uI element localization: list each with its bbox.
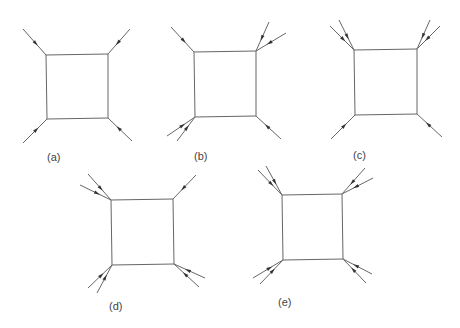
arrow-icon [345,33,349,39]
diagram-label-e: (e) [278,296,291,308]
arrow-icon [267,40,273,44]
loop-square [111,199,174,265]
diagram-label-d: (d) [109,300,122,312]
arrow-icon [353,184,359,188]
loop-square [46,54,108,119]
box-diagram-a [23,29,132,143]
diagram-label-b: (b) [194,150,207,162]
arrow-icon [94,191,100,195]
arrow-icon [185,269,191,273]
arrow-icon [272,179,276,185]
loop-square [282,194,343,260]
loop-square [354,49,417,115]
diagram-label-c: (c) [353,149,366,161]
box-diagram-e [253,166,373,284]
arrow-icon [266,266,272,270]
box-diagram-b [167,22,286,141]
arrow-icon [103,275,107,281]
feynman-box-diagrams-figure: (a) (b) (c) (d) (e) [0,0,460,328]
diagram-label-a: (a) [47,151,60,163]
box-diagram-c [330,20,442,139]
box-diagram-d [80,174,205,293]
diagram-canvas [0,0,460,328]
arrow-icon [261,35,265,41]
loop-square [194,51,256,117]
arrow-icon [422,33,426,39]
arrow-icon [353,264,359,268]
arrow-icon [179,124,185,129]
